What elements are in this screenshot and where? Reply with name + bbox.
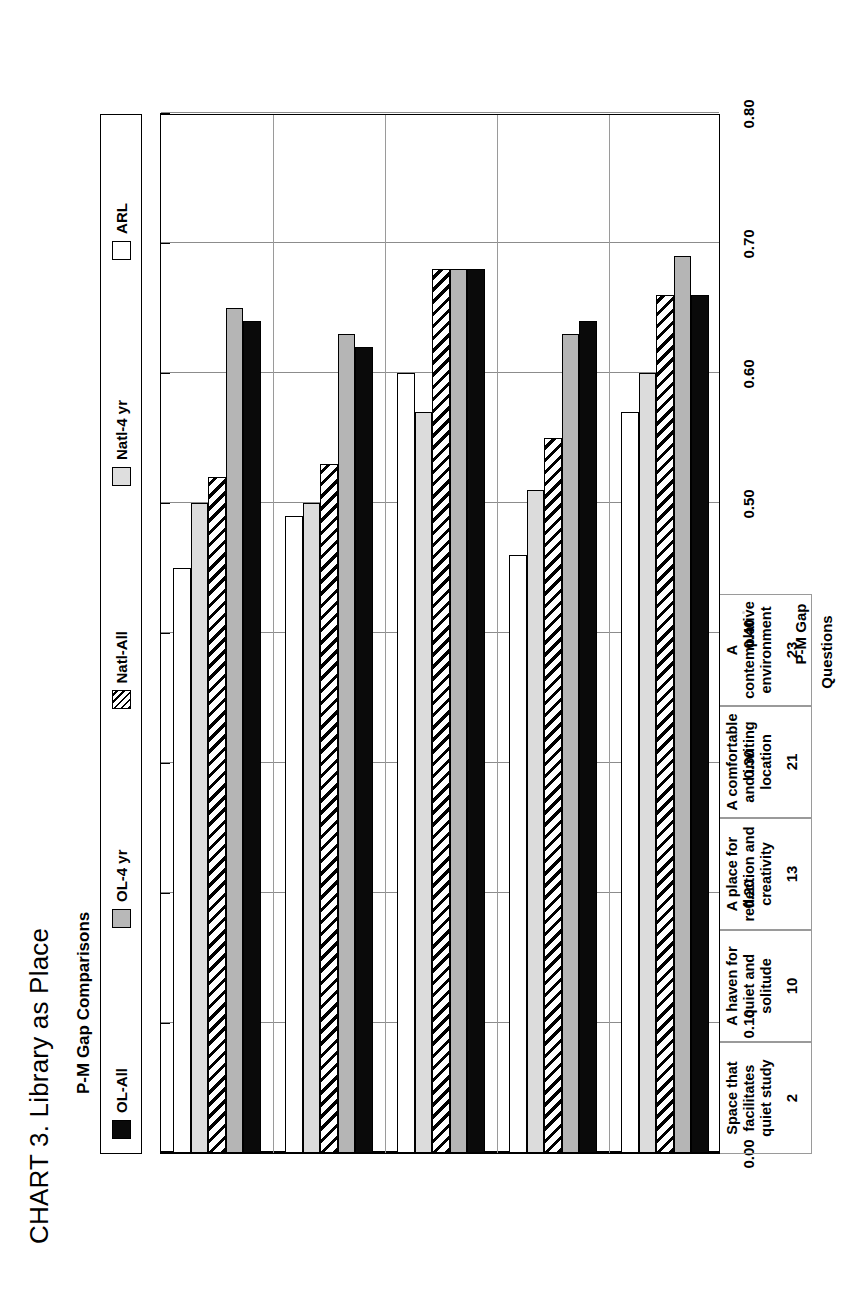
bar-ol-all <box>579 321 597 1153</box>
y-tick <box>160 633 170 634</box>
bar-natl-all <box>432 269 450 1153</box>
group-separator <box>609 115 610 1153</box>
bar-ol-4-yr <box>674 256 692 1153</box>
category-label: A comfortable and inviting location <box>724 710 775 813</box>
scan-speck <box>742 611 745 614</box>
bar-group-23 <box>609 115 721 1153</box>
chart-subtitle: P-M Gap Comparisons <box>74 912 94 1094</box>
bar-arl <box>509 555 527 1153</box>
bar-ol-all <box>355 347 373 1153</box>
bar-group-2 <box>161 115 273 1153</box>
category-label: A contemplative environment <box>724 598 775 701</box>
legend-item-ol-all: OL-All <box>112 1068 131 1139</box>
bar-ol-all <box>467 269 485 1153</box>
bar-group-13 <box>385 115 497 1153</box>
category-cell-23: A contemplative environment23 <box>720 594 812 706</box>
y-tick <box>160 373 170 374</box>
group-separator <box>385 115 386 1153</box>
bar-group-10 <box>273 115 385 1153</box>
chart-legend: OL-AllOL-4 yrNatl-AllNatl-4 yrARL <box>100 114 142 1154</box>
group-separator <box>497 115 498 1153</box>
category-label: A place for reflection and creativity <box>724 822 775 925</box>
swatch-black-icon <box>112 1120 131 1139</box>
chart-page: CHART 3. Library as Place P-M Gap Compar… <box>0 0 852 1304</box>
legend-label: OL-4 yr <box>113 849 130 902</box>
bar-natl-4-yr <box>303 503 321 1153</box>
y-tick <box>160 1153 170 1154</box>
bar-natl-4-yr <box>639 373 657 1153</box>
gridline <box>161 112 719 113</box>
bar-ol-4-yr <box>338 334 356 1153</box>
y-tick <box>160 503 170 504</box>
legend-label: ARL <box>113 203 130 234</box>
category-cell-21: A comfortable and inviting location21 <box>720 706 812 818</box>
y-tick <box>160 893 170 894</box>
bar-natl-all <box>320 464 338 1153</box>
plot-area <box>160 114 720 1154</box>
category-cell-10: A haven for quiet and solitude10 <box>720 930 812 1042</box>
swatch-gray-icon <box>112 909 131 928</box>
legend-item-natl-all: Natl-All <box>112 631 131 710</box>
category-number: 10 <box>783 978 800 995</box>
chart-title: CHART 3. Library as Place <box>24 928 55 1244</box>
bar-natl-all <box>656 295 674 1153</box>
y-tick <box>160 763 170 764</box>
bar-group-21 <box>497 115 609 1153</box>
category-label: A haven for quiet and solitude <box>724 934 775 1037</box>
category-label: Space that facilitates quiet study <box>724 1046 775 1149</box>
legend-item-ol-4-yr: OL-4 yr <box>112 849 131 928</box>
bar-natl-all <box>208 477 226 1153</box>
category-number: 2 <box>783 1094 800 1102</box>
bar-ol-4-yr <box>450 269 468 1153</box>
category-cell-2: Space that facilitates quiet study2 <box>720 1042 812 1154</box>
category-number: 23 <box>783 642 800 659</box>
bar-natl-all <box>544 438 562 1153</box>
category-cell-13: A place for reflection and creativity13 <box>720 818 812 930</box>
swatch-lgray-icon <box>112 467 131 486</box>
group-separator <box>273 115 274 1153</box>
bar-natl-4-yr <box>415 412 433 1153</box>
bar-arl <box>285 516 303 1153</box>
bar-arl <box>397 373 415 1153</box>
y-tick <box>160 1023 170 1024</box>
y-tick <box>160 113 170 114</box>
figure: CHART 3. Library as Place P-M Gap Compar… <box>0 0 852 1304</box>
legend-item-arl: ARL <box>112 203 131 260</box>
bar-arl <box>621 412 639 1153</box>
legend-label: Natl-4 yr <box>113 400 130 460</box>
category-number: 21 <box>783 754 800 771</box>
category-number: 13 <box>783 866 800 883</box>
bar-ol-all <box>691 295 709 1153</box>
legend-label: Natl-All <box>113 631 130 684</box>
rotated-figure: CHART 3. Library as Place P-M Gap Compar… <box>0 0 852 1304</box>
bar-ol-all <box>243 321 261 1153</box>
legend-label: OL-All <box>113 1068 130 1113</box>
x-axis-title: Questions <box>818 0 835 1304</box>
swatch-white-icon <box>112 241 131 260</box>
y-tick <box>160 243 170 244</box>
legend-item-natl-4-yr: Natl-4 yr <box>112 400 131 486</box>
bar-ol-4-yr <box>562 334 580 1153</box>
bar-ol-4-yr <box>226 308 244 1153</box>
x-axis-category-labels: Space that facilitates quiet study2A hav… <box>720 114 812 1154</box>
swatch-hatch-icon <box>112 690 131 709</box>
bar-arl <box>173 568 191 1153</box>
bar-natl-4-yr <box>527 490 545 1153</box>
bar-natl-4-yr <box>191 503 209 1153</box>
